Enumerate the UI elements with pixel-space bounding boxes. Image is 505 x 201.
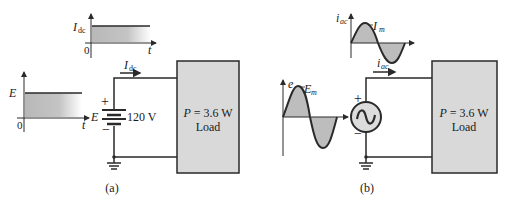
source-minus: − xyxy=(354,126,362,141)
iac-arrow-sub: ac xyxy=(381,62,389,71)
iac-arrow-label: i xyxy=(377,56,380,70)
idc-waveform: I dc 0 t xyxy=(72,14,156,58)
idc-x-label: t xyxy=(148,43,152,57)
e-origin: 0 xyxy=(17,119,23,131)
iac-waveform: i ac I m xyxy=(336,11,414,63)
idc-origin: 0 xyxy=(84,44,90,56)
battery-e-label: E xyxy=(90,110,99,124)
wire-top-b xyxy=(366,78,432,102)
battery-minus: − xyxy=(102,122,110,137)
load-label-a: Load xyxy=(196,120,221,134)
e-sine-y-label: e xyxy=(288,77,294,91)
e-waveform: E 0 t xyxy=(8,72,89,132)
e-y-label: E xyxy=(8,86,17,100)
iac-peak-sub: m xyxy=(379,25,385,34)
dc-vs-ac-diagram: I dc 0 t E 0 t xyxy=(0,0,505,201)
load-power-b: P = 3.6 W xyxy=(438,106,489,120)
e-x-label: t xyxy=(82,118,86,132)
load-label-b: Load xyxy=(452,120,477,134)
source-plus: + xyxy=(354,91,362,106)
caption-a: (a) xyxy=(105,181,118,195)
e-sine-peak-sub: m xyxy=(311,88,317,97)
battery-value: 120 V xyxy=(127,110,157,124)
figure-a: I dc 0 t E 0 t xyxy=(8,14,239,195)
battery-plus: + xyxy=(101,94,109,109)
ground-icon xyxy=(359,157,373,169)
load-power-a: P = 3.6 W xyxy=(182,106,233,120)
iac-y-label: i xyxy=(336,11,339,25)
figure-b: i ac I m e E m xyxy=(283,11,497,195)
ground-icon xyxy=(107,157,121,169)
e-sine-waveform: e E m xyxy=(283,77,348,156)
iac-y-sub: ac xyxy=(340,17,348,26)
wire-bottom-b xyxy=(366,132,432,157)
iac-peak-label: I xyxy=(372,19,378,33)
wire-bottom-a xyxy=(114,126,177,157)
wire-top-a xyxy=(114,78,177,108)
caption-b: (b) xyxy=(360,181,374,195)
idc-y-sub: dc xyxy=(78,26,86,35)
idc-arrow-sub: dc xyxy=(129,64,137,73)
